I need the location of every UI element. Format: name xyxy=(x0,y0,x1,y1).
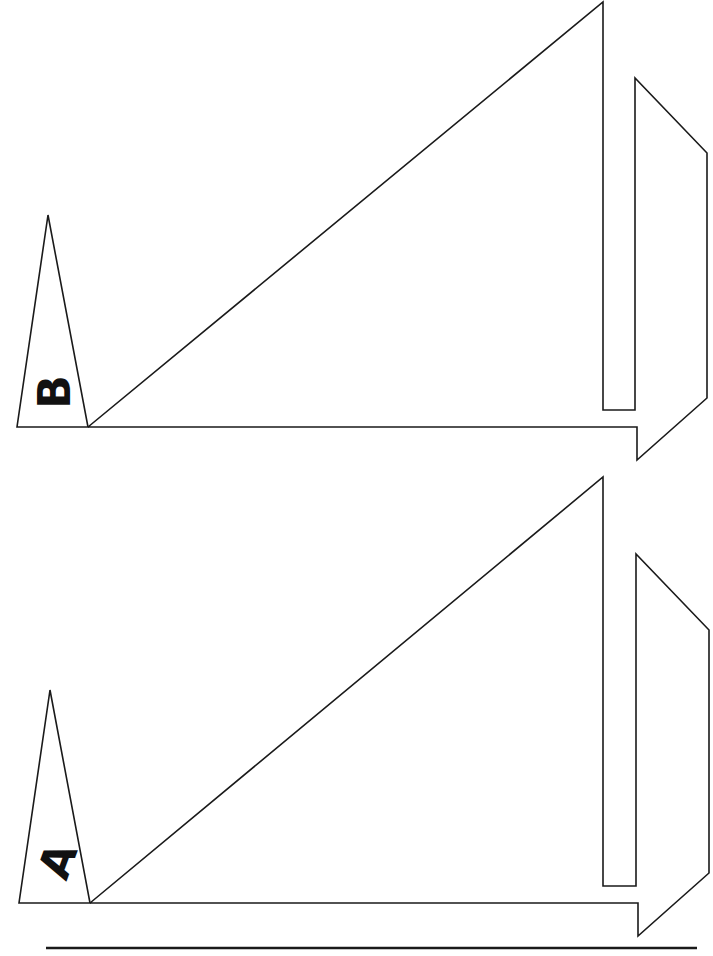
figure-a-large-shape xyxy=(90,477,709,936)
figure-b-label: B xyxy=(29,375,80,409)
diagram-canvas: B A xyxy=(0,0,713,956)
figure-b-large-shape xyxy=(88,2,707,460)
figure-b: B xyxy=(17,2,707,460)
figure-a: A xyxy=(19,477,709,936)
